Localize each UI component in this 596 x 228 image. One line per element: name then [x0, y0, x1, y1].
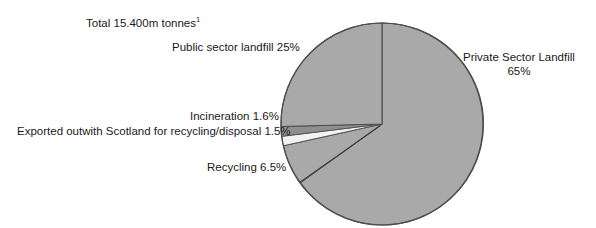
pie-chart-figure: Total 15.400m tonnes1 Public sector land… — [0, 0, 596, 228]
slice-label-incineration: Incineration 1.6% — [190, 110, 279, 123]
slice-label-recycling: Recycling 6.5% — [207, 161, 286, 174]
total-tonnes-note: Total 15.400m tonnes1 — [86, 17, 200, 30]
slice-label-private-line1: Private Sector Landfill — [463, 51, 575, 63]
slice-label-public-sector-landfill: Public sector landfill 25% — [172, 41, 300, 54]
footnote-marker: 1 — [196, 15, 200, 24]
slice-label-exported-outwith-scotland: Exported outwith Scotland for recycling/… — [17, 125, 291, 138]
total-tonnes-text: Total 15.400m tonnes — [86, 17, 196, 29]
pie-chart-graphic — [0, 0, 596, 228]
pie-slice-public-sector-landfill[interactable] — [281, 23, 382, 127]
slice-label-private-line2: 65% — [463, 64, 575, 78]
slice-label-private-sector-landfill: Private Sector Landfill 65% — [463, 50, 575, 78]
